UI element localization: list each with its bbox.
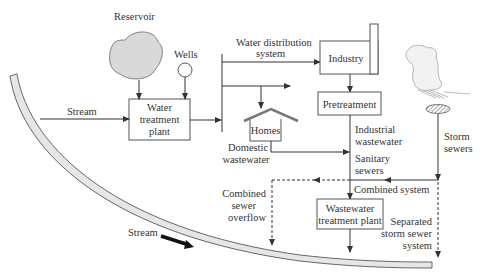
combined-system-label: Combined system	[354, 184, 430, 195]
stream-flow-arrowhead	[184, 240, 194, 249]
separated-storm-label-1: Separated	[391, 216, 433, 227]
storm-sewers-label-2: sewers	[444, 143, 473, 154]
pretreatment-label: Pretreatment	[323, 99, 377, 110]
wastewater-treatment-label-1: Wastewater	[326, 203, 375, 214]
storm-inlet-icon	[426, 105, 450, 114]
wastewater-treatment-label-2: treatment plant	[318, 215, 381, 226]
water-treatment-label-3: plant	[149, 126, 170, 137]
combined-arrow-head	[384, 177, 391, 183]
storm-sewers-label-1: Storm	[444, 131, 470, 142]
industrial-wastewater-label-2: wastewater	[355, 136, 403, 147]
water-treatment-label-1: Water	[147, 102, 172, 113]
wells-label: Wells	[174, 49, 198, 60]
reservoir-label: Reservoir	[114, 11, 155, 22]
separated-storm-label-2: storm sewer	[381, 228, 433, 239]
water-treatment-label-2: treatment	[140, 114, 180, 125]
sanitary-sewers-label-1: Sanitary	[355, 153, 391, 164]
storm-cloud-icon	[406, 45, 442, 90]
overflow-arrow-head	[313, 177, 320, 183]
domestic-wastewater-label-2: wastewater	[222, 154, 270, 165]
homes-label: Homes	[251, 125, 281, 136]
water-distribution-label-2: system	[256, 48, 285, 59]
stream-flow-arrow	[161, 236, 189, 245]
water-distribution-label-1: Water distribution	[236, 37, 313, 48]
combined-sewer-overflow-label-2: sewer	[232, 200, 257, 211]
separated-storm-label-3: system	[403, 240, 432, 251]
combined-sewer-overflow-label-1: Combined	[222, 188, 266, 199]
industry-label: Industry	[329, 53, 365, 64]
diagram-svg: Reservoir Wells Water treatment plant St…	[0, 0, 488, 279]
stream-intake-label: Stream	[67, 106, 97, 117]
industry-stack	[370, 24, 378, 74]
wells-icon	[178, 63, 192, 77]
industrial-wastewater-label-1: Industrial	[355, 124, 395, 135]
diagram-stage: Reservoir Wells Water treatment plant St…	[0, 0, 488, 279]
reservoir-shape	[110, 32, 163, 79]
stream-flow-label: Stream	[128, 227, 158, 238]
sanitary-sewers-label-2: sewers	[355, 165, 384, 176]
combined-sewer-overflow-label-3: overflow	[228, 212, 266, 223]
storm-rain	[418, 90, 470, 98]
domestic-wastewater-label-1: Domestic	[228, 142, 269, 153]
